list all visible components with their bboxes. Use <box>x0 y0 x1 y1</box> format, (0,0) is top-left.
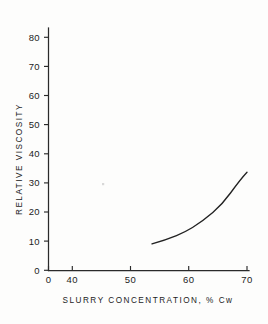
viscosity-curve <box>152 172 247 244</box>
x-tick-label-0: 0 <box>46 274 52 285</box>
x-tick-label-50: 50 <box>125 274 136 285</box>
y-tick-label-80: 80 <box>29 32 40 43</box>
y-tick-label-20: 20 <box>29 206 40 217</box>
y-tick-label-40: 40 <box>29 148 40 159</box>
y-tick-label-70: 70 <box>29 61 40 72</box>
x-tick-label-70: 70 <box>241 274 252 285</box>
y-axis-title: RELATIVE VISCOSITY <box>15 103 24 215</box>
y-tick-label-50: 50 <box>29 119 40 130</box>
scan-artifact-speck <box>102 183 104 185</box>
y-tick-label-60: 60 <box>29 90 40 101</box>
y-tick-label-0: 0 <box>34 265 40 276</box>
y-axis-ticks <box>44 37 49 270</box>
y-tick-label-30: 30 <box>29 177 40 188</box>
y-tick-label-10: 10 <box>29 236 40 247</box>
x-axis-ticks <box>49 266 248 271</box>
x-tick-label-60: 60 <box>183 274 194 285</box>
x-axis-title: SLURRY CONCENTRATION, % Cw <box>63 296 234 305</box>
chart-plot-area: 80 70 60 50 40 30 20 10 0 0 40 50 60 70 … <box>0 0 268 324</box>
x-tick-label-40: 40 <box>67 274 78 285</box>
chart-figure: 80 70 60 50 40 30 20 10 0 0 40 50 60 70 … <box>0 0 268 324</box>
